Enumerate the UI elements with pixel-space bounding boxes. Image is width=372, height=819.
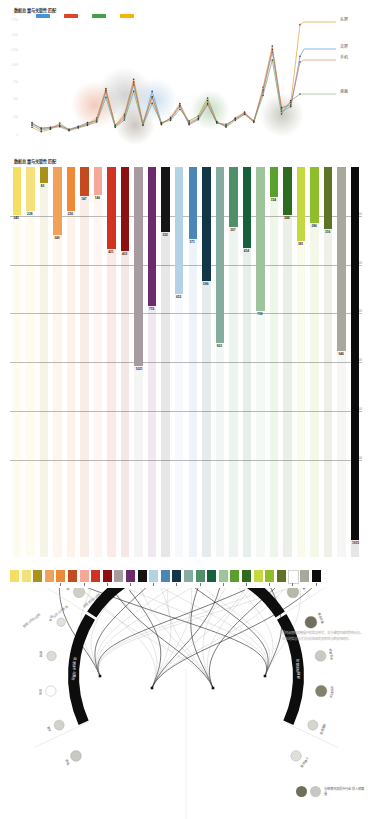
palette-swatch[interactable] [10,570,19,582]
bar-column[interactable]: 83 [40,167,48,557]
chord-node[interactable]: 课程 [64,751,82,766]
bar-value-label: 414 [244,249,249,253]
chord-node[interactable]: 数据 [38,651,56,661]
palette-swatch[interactable] [149,570,158,582]
palette-swatch[interactable] [219,570,228,582]
bar-column[interactable]: 307 [229,167,237,557]
bar-fill [243,167,251,248]
bar-column[interactable]: 371 [189,167,197,557]
bar-column[interactable]: 946 [337,167,345,557]
palette-swatch[interactable] [242,570,251,582]
bar-column[interactable]: 652 [175,167,183,557]
bar-fill [53,167,61,235]
chord-node[interactable]: 协同育人 [291,751,310,769]
line-end-label-ciping: 次屏 [340,43,348,49]
chord-hub-node[interactable] [264,675,267,678]
palette-swatch[interactable] [172,570,181,582]
chord-node[interactable]: 质量监控 [287,588,307,598]
chord-hub-node[interactable] [212,687,215,690]
palette-swatch[interactable] [230,570,239,582]
palette-swatch[interactable] [277,570,286,582]
bar-column[interactable]: 147 [80,167,88,557]
bar-column[interactable]: 286 [310,167,318,557]
chord-ribbon [114,588,267,676]
line-data-point [151,96,153,98]
palette-swatch[interactable] [114,570,123,582]
chord-node[interactable]: 实践创新 [315,685,334,698]
bar-value-label: 244 [284,216,289,220]
bar-column[interactable]: 226 [67,167,75,557]
bar-column[interactable]: 381 [297,167,305,557]
palette-swatch[interactable] [33,570,42,582]
bar-column[interactable]: 715 [148,167,156,557]
chord-hub-node[interactable] [99,675,102,678]
bar-column[interactable]: 586 [202,167,210,557]
line-data-point [235,120,237,122]
line-data-point [207,103,209,105]
palette-swatch[interactable] [91,570,100,582]
palette-swatch[interactable] [288,570,299,584]
bar-chart-title: 数据总量与关联性匹配 [14,158,56,164]
bar-column[interactable]: 349 [53,167,61,557]
line-data-point [271,59,273,61]
bar-chart-section: 数据总量与关联性匹配 25050075010001250150024522883… [0,155,372,570]
chord-node[interactable]: 管理服务 [308,720,327,735]
bar-value-label: 349 [54,236,59,240]
palette-swatch[interactable] [300,570,309,582]
bar-column[interactable]: 1915 [351,167,359,557]
palette-swatch[interactable] [312,570,321,582]
bar-column[interactable]: 433 [121,167,129,557]
bar-column[interactable]: 421 [107,167,115,557]
bar-fill [134,167,142,366]
chord-node[interactable]: 教学 [46,720,64,732]
palette-swatch[interactable] [68,570,77,582]
bar-column[interactable]: 414 [243,167,251,557]
palette-swatch[interactable] [161,570,170,582]
line-data-point [50,128,52,130]
palette-tick [246,583,247,586]
bar-column[interactable]: 1021 [134,167,142,557]
palette-swatch[interactable] [254,570,263,582]
palette-swatch[interactable] [56,570,65,582]
bar-column[interactable]: 228 [26,167,34,557]
bar-fill [13,167,21,215]
chord-diagram-section: 信息技术与整合数字化教育方案教学资源数据库课程体系建设课程教学资源数据技术平台应… [0,588,372,819]
palette-swatch[interactable] [207,570,216,582]
palette-swatch[interactable] [265,570,274,582]
bar-fill [26,167,34,211]
arc-segment-2[interactable]: 数字化教育方案 [87,588,185,618]
line-data-point [105,88,107,90]
bar-column[interactable]: 154 [270,167,278,557]
chord-node[interactable]: 教师发展 [305,612,325,629]
bar-column[interactable]: 739 [256,167,264,557]
chord-node-label: 数据 [38,651,44,658]
bar-column[interactable]: 332 [161,167,169,557]
bar-column[interactable]: 245 [13,167,21,557]
line-data-point [124,115,126,117]
chord-hub-node[interactable] [151,687,154,690]
bar-column[interactable]: 146 [94,167,102,557]
bar-column[interactable]: 244 [283,167,291,557]
line-data-point [290,104,292,106]
bar-column[interactable]: 316 [324,167,332,557]
bar-fill [297,167,305,241]
bar-value-label: 147 [81,197,86,201]
palette-swatch[interactable] [196,570,205,582]
line-data-point [77,127,79,129]
bar-fill [40,167,48,183]
palette-swatch[interactable] [103,570,112,582]
palette-swatch[interactable] [126,570,135,582]
bar-track [26,167,34,557]
chord-node[interactable]: 平台应用 [65,588,84,598]
chord-node-circle [305,616,317,628]
line-data-point [198,115,200,117]
chord-node[interactable]: 学生素养 [315,648,334,661]
palette-swatch[interactable] [22,570,31,582]
palette-swatch[interactable] [138,570,147,582]
palette-swatch[interactable] [80,570,89,582]
chord-node[interactable]: 资源 [38,686,56,696]
palette-tick [107,583,108,586]
bar-column[interactable]: 903 [216,167,224,557]
palette-swatch[interactable] [184,570,193,582]
palette-swatch[interactable] [45,570,54,582]
